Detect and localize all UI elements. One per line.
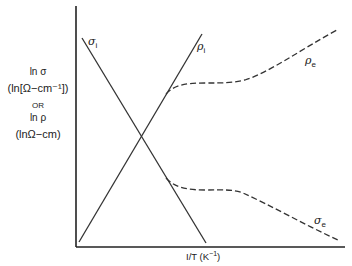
x-axis-label: I/T (K−1) <box>186 250 220 262</box>
label-rho-e: ρe <box>305 55 316 70</box>
rho-i-line <box>79 34 202 242</box>
y-axis-label-ln-sigma: ln σ <box>0 66 76 78</box>
label-rho-i: ρi <box>197 41 205 56</box>
y-axis-label-sigma-units: (ln[Ω−cm⁻¹]) <box>0 82 76 94</box>
sigma-e-curve <box>166 178 338 240</box>
label-sigma-e: σe <box>314 215 326 230</box>
sigma-i-line <box>82 38 206 243</box>
label-sigma-i: σi <box>88 36 97 51</box>
y-axis-label-ln-rho: ln ρ <box>0 112 76 124</box>
y-axis-label-or: OR <box>0 100 76 112</box>
conductivity-resistivity-diagram: ln σ (ln[Ω−cm⁻¹]) OR ln ρ (lnΩ−cm) σi ρi… <box>0 0 352 266</box>
y-axis-label-rho-units: (lnΩ−cm) <box>0 128 76 140</box>
